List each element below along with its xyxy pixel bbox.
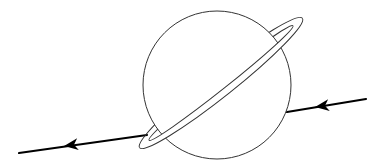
ringed-planet-diagram — [0, 0, 383, 166]
trajectory-line-left — [19, 135, 147, 153]
